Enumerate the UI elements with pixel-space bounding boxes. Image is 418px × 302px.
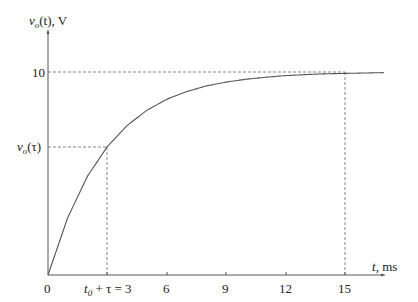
chart-canvas [0, 0, 418, 302]
y-tick-10: 10 [32, 66, 45, 79]
x-tick-15: 15 [338, 282, 351, 295]
x-axis-label: t, ms [372, 260, 397, 273]
x-tick-9: 9 [222, 282, 229, 295]
response-curve [48, 73, 384, 275]
x-tick-12: 12 [279, 282, 292, 295]
guide-lines [48, 72, 345, 275]
x-tick-0: 0 [44, 282, 51, 295]
x-tick-6: 6 [163, 282, 170, 295]
y-tick-v-tau: vo(τ) [17, 140, 41, 156]
y-axis-label: vo(t), V [29, 14, 67, 30]
x-tick-tau: t0 + τ = 3 [84, 282, 132, 298]
